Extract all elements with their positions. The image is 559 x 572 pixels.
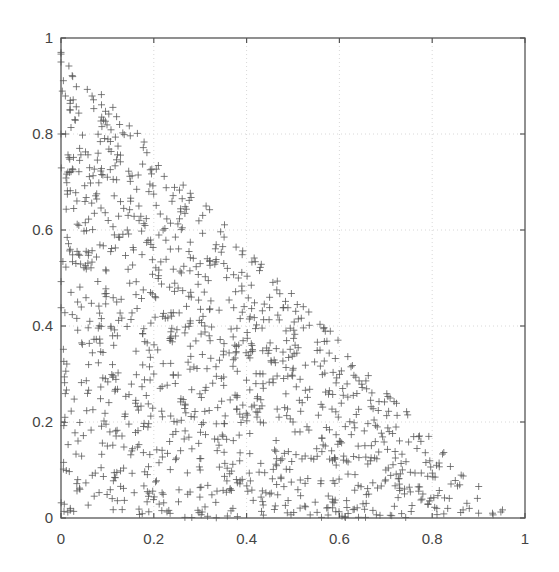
y-tick-label: 0.4 xyxy=(32,317,53,334)
y-tick-label: 0.8 xyxy=(32,125,53,142)
y-tick-label: 1 xyxy=(45,29,53,46)
x-tick-label: 0.8 xyxy=(422,530,443,547)
x-tick-label: 0.4 xyxy=(236,530,257,547)
x-axis-tick-labels: 00.20.40.60.81 xyxy=(57,530,529,547)
plot-frame xyxy=(61,38,525,518)
axis-ticks xyxy=(61,38,525,518)
x-tick-label: 1 xyxy=(521,530,529,547)
data-points xyxy=(58,49,507,521)
grid-lines xyxy=(61,38,525,518)
scatter-chart: 00.20.40.60.81 00.20.40.60.81 xyxy=(0,0,559,572)
x-tick-label: 0.2 xyxy=(143,530,164,547)
y-axis-tick-labels: 00.20.40.60.81 xyxy=(32,29,53,526)
plus-markers xyxy=(58,49,507,521)
x-tick-label: 0 xyxy=(57,530,65,547)
y-tick-label: 0 xyxy=(45,509,53,526)
y-tick-label: 0.2 xyxy=(32,413,53,430)
x-tick-label: 0.6 xyxy=(329,530,350,547)
y-tick-label: 0.6 xyxy=(32,221,53,238)
